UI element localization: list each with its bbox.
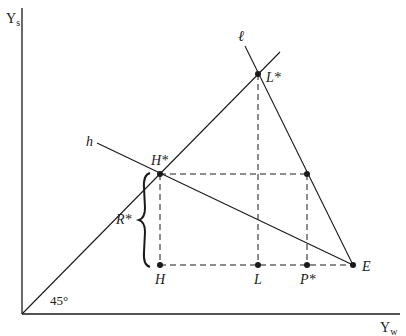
point-E [350, 262, 356, 268]
angle-label: 45° [50, 293, 68, 308]
H-star-label: H* [150, 153, 168, 168]
y-axis-label: Ys [6, 11, 20, 28]
h-line [97, 143, 353, 265]
point-L-star [255, 71, 261, 77]
H-label: H [154, 272, 166, 287]
point-H [157, 262, 163, 268]
point-H-star [157, 171, 163, 177]
L-star-label: L* [265, 70, 281, 85]
h-label: h [86, 134, 93, 149]
L-label: L [253, 272, 262, 287]
ell-line [245, 46, 353, 265]
forty-five-degree-line [22, 52, 280, 314]
x-axis-label: Yw [380, 320, 398, 336]
E-label: E [361, 259, 371, 274]
point-P-star [304, 262, 310, 268]
ell-label: ℓ [238, 28, 244, 44]
dashed-guides [160, 74, 353, 265]
r-star-brace [139, 173, 150, 267]
point-corner [304, 171, 310, 177]
diagram-canvas: Ys Yw 45° ℓ h L* H* R* H L P* E [0, 0, 406, 336]
P-star-label: P* [299, 272, 316, 287]
R-star-label: R* [115, 212, 132, 227]
point-L [255, 262, 261, 268]
